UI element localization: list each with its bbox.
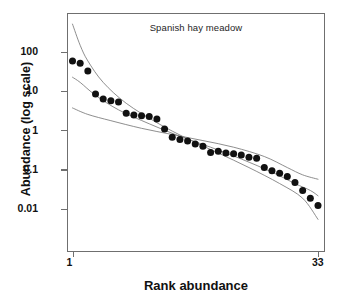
data-point bbox=[100, 96, 107, 103]
data-point bbox=[169, 134, 176, 141]
data-point bbox=[245, 154, 252, 161]
data-point bbox=[253, 155, 260, 162]
data-point bbox=[153, 115, 160, 122]
data-point bbox=[215, 148, 222, 155]
data-point bbox=[222, 150, 229, 157]
data-point bbox=[138, 112, 145, 119]
data-point bbox=[92, 91, 99, 98]
data-point bbox=[299, 187, 306, 194]
data-point bbox=[69, 57, 76, 64]
data-point bbox=[130, 112, 137, 119]
model-curve bbox=[73, 77, 319, 196]
data-point bbox=[207, 149, 214, 156]
data-point bbox=[315, 202, 322, 209]
model-curves bbox=[73, 24, 319, 219]
data-point bbox=[123, 110, 130, 117]
data-point bbox=[261, 164, 268, 171]
data-point bbox=[84, 68, 91, 75]
data-point bbox=[238, 152, 245, 159]
data-point bbox=[115, 98, 122, 105]
chart-data-layer bbox=[0, 0, 343, 307]
data-point bbox=[146, 113, 153, 120]
model-curve bbox=[73, 24, 319, 219]
data-point bbox=[291, 179, 298, 186]
data-point bbox=[307, 195, 314, 202]
data-point bbox=[199, 143, 206, 150]
data-point bbox=[268, 167, 275, 174]
data-point bbox=[230, 150, 237, 157]
data-point bbox=[276, 170, 283, 177]
data-point bbox=[184, 137, 191, 144]
data-point bbox=[176, 136, 183, 143]
figure-container: Spanish hay meadow Abundance (log scale)… bbox=[0, 0, 343, 307]
data-point bbox=[284, 173, 291, 180]
data-point bbox=[161, 126, 168, 133]
data-point bbox=[77, 60, 84, 67]
data-point bbox=[192, 140, 199, 147]
data-point bbox=[107, 97, 114, 104]
